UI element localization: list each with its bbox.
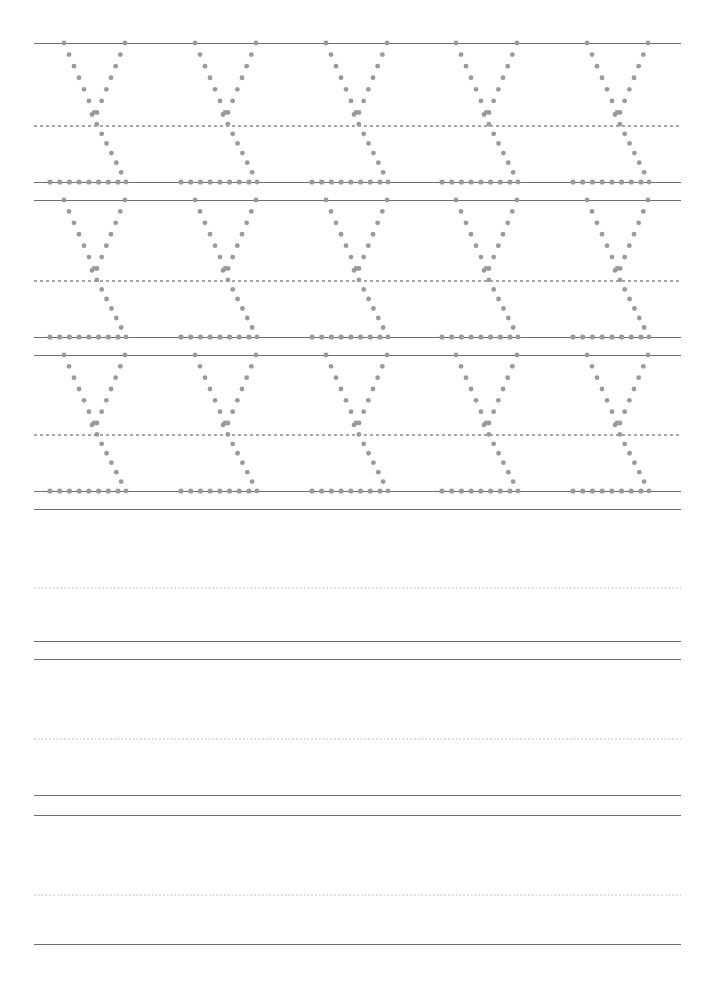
worksheet-page	[0, 0, 713, 989]
rule-line-row-1-baseline	[34, 182, 681, 183]
traced-letter-y	[179, 355, 283, 501]
traced-letter-y	[440, 43, 544, 192]
rule-line-row-2-midline	[34, 268, 681, 270]
rule-line-row-3-top-line	[34, 355, 681, 356]
rule-line-row-3-midline	[34, 422, 681, 424]
letter-row-1	[0, 0, 713, 989]
rule-line-row-4-top-line	[34, 509, 681, 510]
traced-letter-y	[48, 200, 152, 347]
traced-letter-y	[310, 355, 414, 501]
traced-letter-y	[310, 43, 414, 192]
rule-line-row-2-baseline	[34, 337, 681, 338]
rule-line-row-1-midline	[34, 113, 681, 115]
traced-letter-y	[179, 200, 283, 347]
rule-line-row-4-baseline	[34, 641, 681, 642]
traced-letter-y	[571, 43, 675, 192]
letter-row-2	[0, 0, 713, 989]
letter-row-3	[0, 0, 713, 989]
traced-letter-y	[571, 355, 675, 501]
rule-line-row-2-top-line	[34, 200, 681, 201]
rule-line-row-1-top-line	[34, 43, 681, 44]
rule-line-row-3-baseline	[34, 491, 681, 492]
rule-line-row-6-top-line	[34, 815, 681, 816]
traced-letter-y	[440, 200, 544, 347]
traced-letter-y	[440, 355, 544, 501]
traced-letter-y	[48, 355, 152, 501]
rule-line-row-5-midline	[34, 726, 681, 728]
rule-line-row-5-baseline	[34, 795, 681, 796]
rule-line-row-6-baseline	[34, 944, 681, 945]
traced-letter-y	[571, 200, 675, 347]
rule-line-row-5-top-line	[34, 659, 681, 660]
traced-letter-y	[179, 43, 283, 192]
traced-letter-y	[310, 200, 414, 347]
traced-letter-y	[48, 43, 152, 192]
rule-line-row-4-midline	[34, 575, 681, 577]
rule-line-row-6-midline	[34, 882, 681, 884]
